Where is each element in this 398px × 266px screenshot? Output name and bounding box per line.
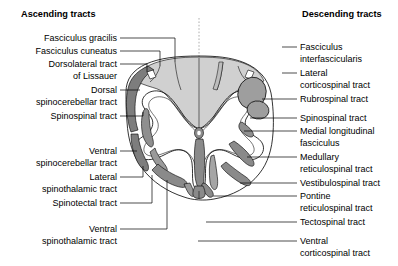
label-line: Dorsolateral tract	[48, 59, 117, 69]
leader-spinotectal-tract	[120, 175, 152, 203]
label-line: interfascicularis	[300, 54, 363, 64]
header-descending-tracts: Descending tracts	[302, 9, 382, 19]
label-medullary-reticulospinal-tract: Medullaryreticulospinal tract	[300, 152, 373, 174]
label-spinospinal-tract-left: Spinospinal tract	[50, 111, 117, 121]
label-rubrospinal-tract: Rubrospinal tract	[300, 94, 369, 104]
label-line: corticospinal tract	[300, 248, 371, 258]
label-pontine-reticulospinal-tract: Pontinereticulospinal tract	[300, 191, 373, 213]
label-line: Fasciculus gracilis	[44, 33, 118, 43]
label-fasciculus-interfascicularis: Fasciculusinterfascicularis	[300, 42, 363, 64]
label-line: of Lissauer	[73, 71, 117, 81]
tract-pontine-reticulospinal	[209, 155, 217, 190]
tract-spinospinal-right	[239, 122, 254, 137]
label-line: Pontine	[300, 191, 331, 201]
label-line: Spinospinal tract	[300, 113, 367, 123]
central-canal-lumen	[197, 131, 201, 135]
label-line: spinothalamic tract	[42, 236, 118, 246]
tract-vestibulospinal	[221, 162, 251, 186]
labels-descending: FasciculusinterfascicularisLateralcortic…	[300, 42, 381, 258]
label-line: Spinotectal tract	[52, 198, 117, 208]
label-line: Fasciculus	[300, 42, 343, 52]
label-line: spinocerebellar tract	[36, 158, 118, 168]
label-fasciculus-gracilis: Fasciculus gracilis	[44, 33, 118, 43]
label-line: Vestibulospinal tract	[300, 178, 381, 188]
labels-ascending: Fasciculus gracilisFasciculus cuneatusDo…	[35, 33, 117, 246]
label-spinotectal-tract: Spinotectal tract	[52, 198, 117, 208]
label-line: spinocerebellar tract	[36, 97, 118, 107]
label-ventral-spinocerebellar-tract: Ventralspinocerebellar tract	[36, 146, 118, 168]
label-line: Spinospinal tract	[50, 111, 117, 121]
label-line: Medullary	[300, 152, 340, 162]
label-ventral-corticospinal-tract: Ventralcorticospinal tract	[300, 236, 371, 258]
label-line: Medial longitudinal	[300, 126, 375, 136]
spinal-cord-diagram: Ascending tracts Descending tracts Fasci…	[0, 0, 398, 266]
label-dorsal-spinocerebellar-tract: Dorsalspinocerebellar tract	[36, 85, 118, 107]
leader-ventral-spinothalamic-tract	[120, 180, 167, 229]
label-line: Ventral	[89, 224, 117, 234]
label-ventral-spinothalamic-tract: Ventralspinothalamic tract	[42, 224, 118, 246]
label-dorsolateral-tract-of-lissauer: Dorsolateral tractof Lissauer	[48, 59, 117, 81]
header-ascending-tracts: Ascending tracts	[21, 9, 96, 19]
label-line: Ventral	[89, 146, 117, 156]
label-line: Fasciculus cuneatus	[35, 46, 117, 56]
label-lateral-spinothalamic-tract: Lateralspinothalamic tract	[42, 172, 118, 194]
label-line: Ventral	[300, 236, 328, 246]
label-line: Lateral	[300, 68, 328, 78]
label-tectospinal-tract: Tectospinal tract	[300, 217, 366, 227]
label-lateral-corticospinal-tract: Lateralcorticospinal tract	[300, 68, 371, 90]
leader-lateral-spinothalamic-tract	[120, 166, 143, 177]
label-line: Tectospinal tract	[300, 217, 366, 227]
figure-canvas: Ascending tracts Descending tracts Fasci…	[0, 0, 398, 266]
label-line: spinothalamic tract	[42, 184, 118, 194]
label-line: fasciculus	[300, 138, 340, 148]
tract-medial-longitudinal-fasciculus	[194, 139, 204, 189]
label-line: reticulospinal tract	[300, 203, 373, 213]
label-line: reticulospinal tract	[300, 164, 373, 174]
label-vestibulospinal-tract: Vestibulospinal tract	[300, 178, 381, 188]
label-spinospinal-tract-right: Spinospinal tract	[300, 113, 367, 123]
label-line: Lateral	[89, 172, 117, 182]
tract-medullary-reticulospinal	[229, 141, 254, 166]
label-fasciculus-cuneatus: Fasciculus cuneatus	[35, 46, 117, 56]
label-medial-longitudinal-fasciculus: Medial longitudinalfasciculus	[300, 126, 375, 148]
label-line: Dorsal	[91, 85, 117, 95]
label-line: Rubrospinal tract	[300, 94, 369, 104]
label-line: corticospinal tract	[300, 80, 371, 90]
